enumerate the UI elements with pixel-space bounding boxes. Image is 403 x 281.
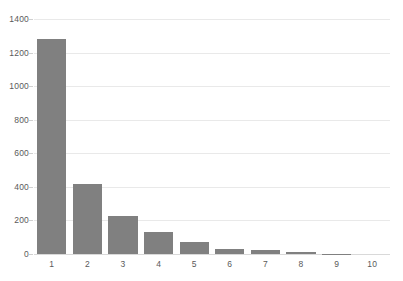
y-axis-tick-label: 400 [14, 182, 29, 192]
y-axis-tick-label: 0 [24, 249, 29, 259]
bar-slot [34, 19, 70, 254]
y-axis-tick-label: 600 [14, 148, 29, 158]
x-axis-tick-label: 6 [212, 259, 248, 269]
x-axis-tick-label: 10 [354, 259, 390, 269]
y-tick-mark-200 [29, 220, 33, 221]
x-axis-tick-label: 3 [105, 259, 141, 269]
gridline-0 [34, 254, 390, 255]
bar-slot [141, 19, 177, 254]
y-tick-mark-1400 [29, 19, 33, 20]
bar[interactable] [251, 250, 280, 254]
bar[interactable] [73, 184, 102, 255]
y-tick-mark-0 [29, 254, 33, 255]
bar-slot [248, 19, 284, 254]
bars-layer [34, 19, 390, 254]
x-axis-tick-label: 5 [176, 259, 212, 269]
bar[interactable] [180, 242, 209, 254]
y-axis-tick-label: 800 [14, 115, 29, 125]
bar[interactable] [37, 39, 66, 254]
x-axis-tick-label: 1 [34, 259, 70, 269]
bar-slot [354, 19, 390, 254]
bar-slot [70, 19, 106, 254]
bar[interactable] [215, 249, 244, 254]
y-tick-mark-400 [29, 187, 33, 188]
bar[interactable] [108, 216, 137, 254]
y-tick-mark-1000 [29, 86, 33, 87]
y-axis-tick-label: 1400 [9, 14, 29, 24]
x-axis-tick-label: 7 [248, 259, 284, 269]
bar-slot [283, 19, 319, 254]
bar-chart: 020040060080010001200140012345678910 [0, 0, 403, 281]
x-axis-tick-label: 4 [141, 259, 177, 269]
x-axis-tick-label: 2 [70, 259, 106, 269]
bar-slot [212, 19, 248, 254]
y-tick-mark-800 [29, 120, 33, 121]
bar-slot [105, 19, 141, 254]
x-axis-tick-label: 8 [283, 259, 319, 269]
bar[interactable] [286, 252, 315, 254]
y-tick-mark-600 [29, 153, 33, 154]
bar[interactable] [144, 232, 173, 254]
y-axis-tick-label: 1200 [9, 48, 29, 58]
bar-slot [319, 19, 355, 254]
x-axis-tick-label: 9 [319, 259, 355, 269]
y-tick-mark-1200 [29, 53, 33, 54]
bar-slot [176, 19, 212, 254]
y-axis-tick-label: 1000 [9, 81, 29, 91]
bar[interactable] [322, 254, 351, 255]
y-axis-tick-label: 200 [14, 215, 29, 225]
